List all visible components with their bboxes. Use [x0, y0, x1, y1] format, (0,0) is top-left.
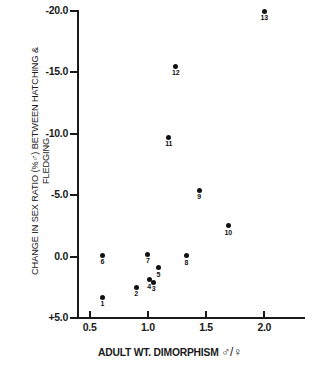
y-tick-mark: [70, 256, 77, 258]
data-point-label: 2: [128, 290, 144, 297]
scatter-chart-figure: CHANGE IN SEX RATIO (%♂) BETWEEN HATCHIN…: [0, 0, 316, 379]
y-tick-label: -15.0: [0, 65, 68, 77]
data-point-marker: [226, 223, 231, 228]
x-tick-label: 0.5: [70, 321, 110, 333]
y-tick-mark: [70, 133, 77, 135]
x-tick-label: 1.0: [128, 321, 168, 333]
data-point-label: 6: [94, 258, 110, 265]
x-axis-line: [77, 317, 305, 319]
data-point-marker: [134, 285, 139, 290]
y-tick-mark: [70, 71, 77, 73]
data-point-label: 4: [141, 283, 157, 290]
data-point-marker: [262, 9, 267, 14]
data-point-marker: [173, 64, 178, 69]
data-point-label: 1: [94, 300, 110, 307]
x-tick-mark: [147, 311, 149, 318]
x-tick-label: 1.5: [186, 321, 226, 333]
x-tick-mark: [205, 311, 207, 318]
y-tick-mark: [70, 317, 77, 319]
x-tick-mark: [263, 311, 265, 318]
data-point-marker: [100, 253, 105, 258]
data-point-label: 5: [150, 271, 166, 278]
y-axis-line: [77, 10, 79, 319]
y-axis-title: CHANGE IN SEX RATIO (%♂) BETWEEN HATCHIN…: [0, 0, 36, 325]
data-point-label: 11: [161, 140, 177, 147]
y-tick-label: -5.0: [0, 188, 68, 200]
y-tick-label: 0.0: [0, 250, 68, 262]
data-point-marker: [197, 188, 202, 193]
x-tick-mark: [89, 311, 91, 318]
x-axis-title-text: ADULT WT. DIMORPHISM ♂/♀: [98, 347, 242, 358]
data-point-marker: [156, 265, 161, 270]
y-tick-mark: [70, 194, 77, 196]
data-point-label: 13: [256, 14, 272, 21]
y-axis-title-line1: CHANGE IN SEX RATIO (%♂) BETWEEN HATCHIN…: [30, 47, 40, 275]
y-tick-label: -20.0: [0, 4, 68, 16]
y-axis-title-line2: FLEDGING: [41, 0, 52, 322]
y-tick-label: -10.0: [0, 127, 68, 139]
data-point-marker: [145, 252, 150, 257]
data-point-label: 12: [168, 69, 184, 76]
data-point-label: 8: [178, 259, 194, 266]
x-axis-title: ADULT WT. DIMORPHISM ♂/♀: [40, 345, 300, 359]
data-point-label: 9: [191, 193, 207, 200]
data-point-marker: [166, 135, 171, 140]
y-tick-mark: [70, 10, 77, 12]
data-point-marker: [184, 253, 189, 258]
x-tick-label: 2.0: [244, 321, 284, 333]
data-point-label: 7: [140, 257, 156, 264]
data-point-marker: [100, 295, 105, 300]
data-point-label: 10: [220, 229, 236, 236]
y-tick-label: +5.0: [0, 311, 68, 323]
